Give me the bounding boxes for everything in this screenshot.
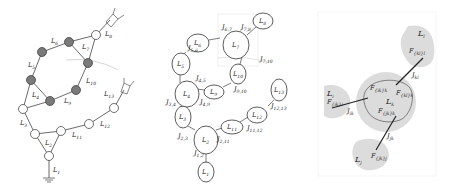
joint-node bbox=[19, 105, 28, 114]
joint-node bbox=[57, 127, 66, 136]
panel-b-svg: L1 L2 L3 L4 L5 L6 L7 L8 L9 L10 L11 L12 L… bbox=[150, 0, 300, 188]
label-L2: L2 bbox=[44, 139, 52, 148]
label-J67: J6,7 bbox=[220, 23, 232, 32]
panel-a-kinematic-graph: L1 L2 L3 L4 L5 L6 L7 L8 L9 L10 L11 L12 L… bbox=[0, 0, 150, 188]
joint-node bbox=[45, 152, 54, 161]
label-L5: L5 bbox=[27, 61, 35, 70]
joint-node-closed-loop bbox=[27, 76, 36, 85]
panel-a-svg: L1 L2 L3 L4 L5 L6 L7 L8 L9 L10 L11 L12 L… bbox=[0, 0, 150, 188]
label-J910: J9,10 bbox=[232, 85, 247, 94]
label-L11: L11 bbox=[71, 131, 82, 140]
label-J710: J7,10 bbox=[258, 55, 273, 64]
joint-node-closed-loop bbox=[65, 38, 74, 47]
label-L13: L13 bbox=[103, 90, 114, 99]
label-J78: J7,8 bbox=[239, 23, 251, 32]
label-L1: L1 bbox=[52, 166, 60, 175]
ground-icon bbox=[43, 178, 55, 182]
label-J211: J2,11 bbox=[215, 135, 230, 144]
label-L8: L8 bbox=[104, 30, 112, 39]
joint-node-closed-loop bbox=[46, 97, 55, 106]
label-L6: L6 bbox=[50, 37, 58, 46]
label-J34: J3,4 bbox=[164, 98, 176, 107]
label-J1112: J11,12 bbox=[245, 124, 263, 133]
label-L10: L10 bbox=[85, 77, 96, 86]
joint-node-closed-loop bbox=[72, 86, 81, 95]
joint-node bbox=[85, 120, 94, 129]
joint-node bbox=[110, 104, 119, 113]
label-J23: J2,3 bbox=[176, 132, 188, 141]
label-L4: L4 bbox=[31, 91, 39, 100]
joint-node-closed-loop bbox=[84, 59, 93, 68]
joint-node-closed-loop bbox=[38, 48, 47, 57]
joint-node bbox=[92, 31, 101, 40]
label-L9: L9 bbox=[63, 97, 71, 106]
panel-c-svg: Ll Li Lk Lj F{kl}l F{kl}k F{ik}k F{jk}k … bbox=[300, 0, 453, 188]
label-J49: J4,9 bbox=[198, 98, 210, 107]
joint-node bbox=[31, 130, 40, 139]
label-J1213: J12,13 bbox=[269, 102, 287, 111]
label-L12: L12 bbox=[99, 120, 110, 129]
label-L7: L7 bbox=[81, 43, 89, 52]
end-effector-icon bbox=[106, 8, 124, 27]
panel-c-joint-frames: Ll Li Lk Lj F{kl}l F{kl}k F{ik}k F{jk}k … bbox=[300, 0, 453, 188]
label-L3: L3 bbox=[19, 119, 27, 128]
label-J45: J4,5 bbox=[194, 74, 206, 83]
panel-b-link-ellipses: L1 L2 L3 L4 L5 L6 L7 L8 L9 L10 L11 L12 L… bbox=[150, 0, 300, 188]
